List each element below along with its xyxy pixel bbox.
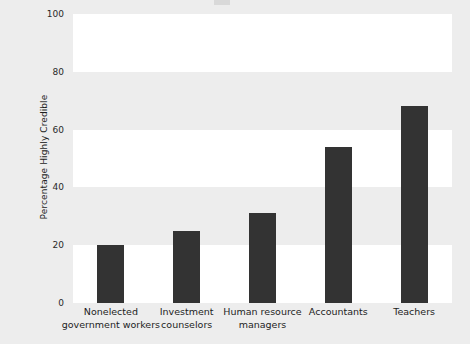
y-axis-tick-labels: 020406080100 xyxy=(0,0,73,344)
y-tick-label: 40 xyxy=(53,182,64,192)
bar[interactable] xyxy=(401,106,428,303)
x-tick-label-line: managers xyxy=(203,319,323,332)
y-tick-label: 100 xyxy=(47,9,64,19)
x-tick-label: Teachers xyxy=(354,306,470,319)
bar-chart: Percentage Highly Credible 020406080100 … xyxy=(0,0,470,344)
plot-area xyxy=(73,14,452,303)
y-tick-label: 60 xyxy=(53,125,64,135)
bar[interactable] xyxy=(325,147,352,303)
y-tick-label: 80 xyxy=(53,67,64,77)
x-axis-category-labels: Nonelectedgovernment workersInvestmentco… xyxy=(73,306,452,344)
x-tick-label-line: Teachers xyxy=(354,306,470,319)
bars-layer xyxy=(73,14,452,303)
cropped-title-sliver xyxy=(214,0,230,5)
bar[interactable] xyxy=(97,245,124,303)
bar[interactable] xyxy=(249,213,276,303)
y-tick-label: 20 xyxy=(53,240,64,250)
bar[interactable] xyxy=(173,231,200,303)
